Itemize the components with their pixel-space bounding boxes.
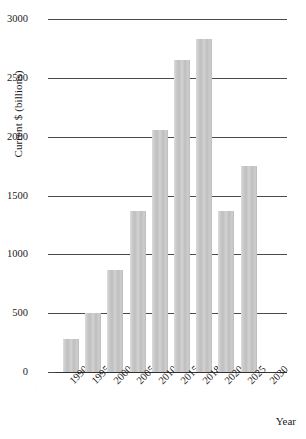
y-axis-tick-label: 2000 xyxy=(0,131,28,142)
gridline xyxy=(55,137,287,138)
y-axis-title: Current $ (billions) xyxy=(12,24,24,204)
bar-2005 xyxy=(130,211,146,372)
bar-2015 xyxy=(174,60,190,372)
plot-area: 0500100015002000250030001990199520002005… xyxy=(55,19,287,372)
bar-2000 xyxy=(107,270,123,372)
bar-2025 xyxy=(241,166,257,372)
bar-1995 xyxy=(85,313,101,372)
y-axis-tick-mark xyxy=(48,372,55,373)
x-axis-title: Year xyxy=(276,415,296,427)
bar-2010 xyxy=(152,130,168,372)
y-axis-tick-mark xyxy=(48,254,55,255)
y-axis-tick-label: 0 xyxy=(0,367,28,378)
bar-chart-figure: Current $ (billions) 0500100015002000250… xyxy=(0,0,306,439)
y-axis-tick-mark xyxy=(48,19,55,20)
x-axis-tick-label-2030: 2030 xyxy=(268,364,290,386)
gridline xyxy=(55,78,287,79)
y-axis-tick-mark xyxy=(48,313,55,314)
y-axis-tick-label: 3000 xyxy=(0,14,28,25)
y-axis-tick-label: 500 xyxy=(0,308,28,319)
y-axis-tick-label: 1000 xyxy=(0,249,28,260)
y-axis-tick-mark xyxy=(48,78,55,79)
y-axis-tick-label: 1500 xyxy=(0,190,28,201)
y-axis-tick-mark xyxy=(48,137,55,138)
y-axis-tick-label: 2500 xyxy=(0,73,28,84)
gridline xyxy=(55,19,287,20)
bar-2018 xyxy=(196,39,212,372)
bar-2020 xyxy=(218,211,234,372)
y-axis-tick-mark xyxy=(48,196,55,197)
